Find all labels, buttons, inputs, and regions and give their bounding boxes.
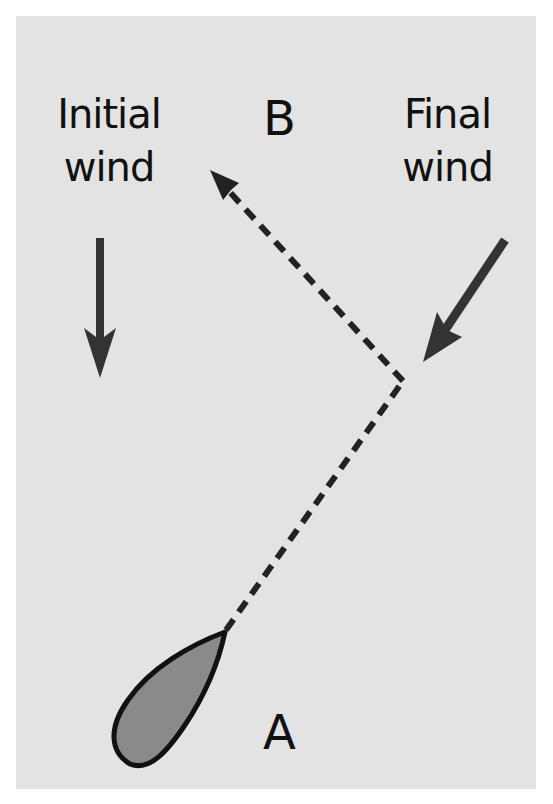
initial-wind-arrow-icon [84,238,116,378]
boat-icon [114,632,225,766]
final-wind-arrow-icon [423,240,505,362]
diagram-graphics [0,0,553,804]
course-path [210,170,403,630]
